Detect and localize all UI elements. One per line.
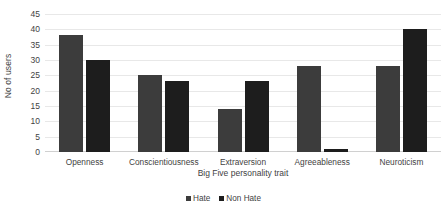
y-axis-title: No of users	[0, 0, 16, 152]
bar	[218, 109, 242, 152]
y-axis-tick-label: 0	[35, 148, 40, 157]
legend-label: Hate	[193, 194, 210, 203]
y-axis-tick-label: 45	[31, 10, 40, 19]
bar-group	[203, 14, 282, 152]
bar	[165, 81, 189, 152]
bar-group	[362, 14, 441, 152]
bar-group	[283, 14, 362, 152]
x-axis-category-label: Extraversion	[203, 155, 282, 169]
bar-group	[45, 14, 124, 152]
x-axis-title: Big Five personality trait	[45, 168, 441, 178]
legend-swatch-icon	[219, 196, 224, 201]
bar	[86, 60, 110, 152]
y-axis-tick-label: 10	[31, 117, 40, 126]
plot-area	[45, 14, 441, 152]
x-axis-category-labels: OpennessConscientiousnessExtraversionAgr…	[45, 155, 441, 169]
bar-groups	[45, 14, 441, 152]
y-axis-tick-label: 25	[31, 71, 40, 80]
x-axis-category-label: Agreeableness	[283, 155, 362, 169]
bar	[324, 149, 348, 152]
y-axis-tick-label: 40	[31, 25, 40, 34]
x-axis-category-label: Conscientiousness	[124, 155, 203, 169]
bar	[297, 66, 321, 152]
legend-label: Non Hate	[226, 194, 261, 203]
bar	[138, 75, 162, 152]
bar	[59, 35, 83, 152]
y-axis-title-label: No of users	[3, 54, 13, 99]
bar	[403, 29, 427, 152]
legend-item[interactable]: Hate	[186, 194, 210, 203]
bar	[376, 66, 400, 152]
y-axis-tick-label: 15	[31, 102, 40, 111]
bar	[245, 81, 269, 152]
legend-swatch-icon	[186, 196, 191, 201]
bar-group	[124, 14, 203, 152]
y-axis-tick-label: 5	[35, 132, 40, 141]
chart-legend: HateNon Hate	[0, 194, 447, 203]
y-axis-tick-label: 35	[31, 40, 40, 49]
x-axis-category-label: Openness	[45, 155, 124, 169]
x-axis-category-label: Neuroticism	[362, 155, 441, 169]
legend-item[interactable]: Non Hate	[219, 194, 261, 203]
y-axis-tick-label: 20	[31, 86, 40, 95]
y-axis-tick-label: 30	[31, 56, 40, 65]
y-axis-tick-labels: 051015202530354045	[16, 0, 43, 160]
bar-chart: No of users 051015202530354045 OpennessC…	[0, 0, 447, 217]
